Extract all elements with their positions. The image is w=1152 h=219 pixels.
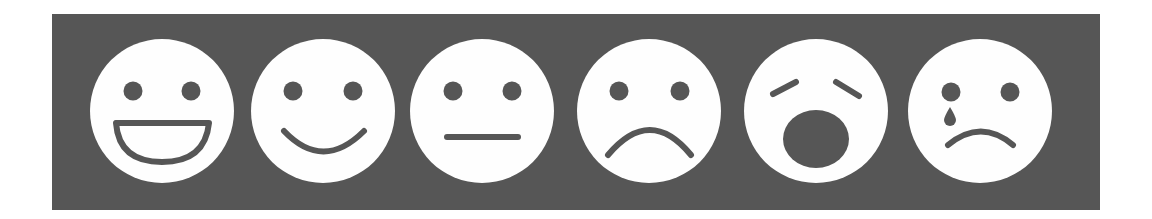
- right-eye-icon: [503, 82, 522, 101]
- face-sad[interactable]: [577, 39, 721, 183]
- right-eye-icon: [344, 82, 363, 101]
- left-eye-icon: [942, 83, 961, 102]
- face-crying[interactable]: [908, 39, 1052, 183]
- left-eye-icon: [124, 82, 143, 101]
- face-circle: [251, 39, 395, 183]
- face-circle: [577, 39, 721, 183]
- left-eye-icon: [610, 82, 629, 101]
- face-very-happy[interactable]: [90, 39, 234, 183]
- face-rating-scale: Pain / mood face rating scale very happy…: [0, 0, 1152, 219]
- right-eye-icon: [182, 82, 201, 101]
- open-grin-mouth-icon: [116, 123, 209, 162]
- left-eye-icon: [444, 82, 463, 101]
- face-circle: [908, 39, 1052, 183]
- face-circle: [410, 39, 554, 183]
- face-happy[interactable]: [251, 39, 395, 183]
- face-neutral[interactable]: [410, 39, 554, 183]
- open-mouth-icon: [783, 110, 849, 168]
- face-distressed[interactable]: [744, 39, 888, 183]
- faces-row: [0, 0, 1152, 219]
- right-eye-icon: [671, 82, 690, 101]
- left-eye-icon: [284, 82, 303, 101]
- right-eye-icon: [1001, 83, 1020, 102]
